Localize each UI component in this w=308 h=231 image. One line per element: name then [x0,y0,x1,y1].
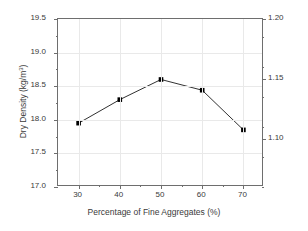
x-axis-minor-tick [140,185,141,187]
y-axis-right-minor-tick [262,187,264,188]
chart-figure: 304050607017.017.518.018.519.019.51.101.… [0,0,308,231]
x-axis-minor-tick [99,185,100,187]
x-axis-tick [120,185,121,189]
y-axis-left-title: Dry Density (kg/m3) [18,31,29,171]
y-axis-right-minor-tick [262,97,264,98]
gridline-vertical [202,19,203,185]
gridline-vertical [243,19,244,185]
x-axis-tick [243,185,244,189]
y-axis-right-tick [262,19,266,20]
y-axis-right-minor-tick [262,67,264,68]
y-axis-left-minor-tick [56,103,58,104]
y-axis-left-tick [54,120,58,121]
gridline-horizontal [58,53,262,54]
y-axis-right-minor-tick [262,37,264,38]
x-axis-minor-tick [223,185,224,187]
y-axis-left-minor-tick [56,137,58,138]
y-axis-right-tick-label: 1.10 [268,134,308,142]
x-axis-tick-label: 40 [104,191,134,199]
y-axis-left-minor-tick [56,36,58,37]
y-axis-left-tick [54,153,58,154]
x-axis-tick-label: 70 [227,191,257,199]
y-axis-left-tick-label: 19.5 [6,14,46,22]
gridline-vertical [79,19,80,185]
y-axis-right-minor-tick [262,157,264,158]
y-axis-right-tick [262,139,266,140]
y-axis-left-tick-label: 17.0 [6,182,46,190]
x-axis-tick [161,185,162,189]
gridline-horizontal [58,120,262,121]
y-axis-left-minor-tick [56,69,58,70]
gridline-horizontal [58,86,262,87]
gridline-horizontal [58,153,262,154]
x-axis-tick [202,185,203,189]
x-axis-tick-label: 60 [186,191,216,199]
y-axis-right-tick [262,79,266,80]
x-axis-tick [79,185,80,189]
y-axis-right-tick-label: 1.15 [268,74,308,82]
y-axis-left-tick [54,53,58,54]
x-axis-minor-tick [182,185,183,187]
y-axis-left-minor-tick [56,170,58,171]
y-axis-right-tick-label: 1.20 [268,14,308,22]
y-axis-left-tick [54,86,58,87]
x-axis-title: Percentage of Fine Aggregates (%) [0,207,308,217]
plot-area [57,18,263,186]
y-axis-left-tick [54,19,58,20]
x-axis-tick-label: 30 [63,191,93,199]
gridline-vertical [120,19,121,185]
x-axis-tick-label: 50 [145,191,175,199]
y-axis-right-minor-tick [262,127,264,128]
y-axis-left-tick [54,187,58,188]
gridline-vertical [161,19,162,185]
